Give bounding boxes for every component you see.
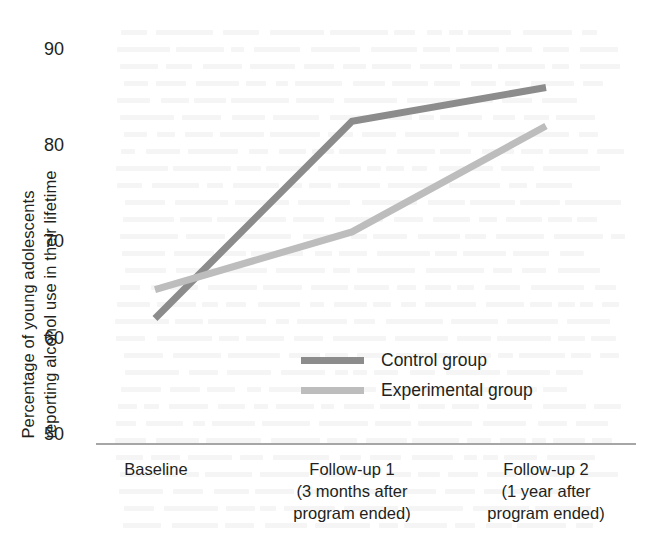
series-layer	[155, 88, 546, 319]
legend-item-control-group: Control group	[301, 345, 601, 375]
x-axis-label-baseline: Baseline	[86, 458, 226, 480]
x-axis-label-followup-2: Follow-up 2 (1 year after program ended)	[456, 458, 636, 524]
legend-swatch-experimental-group	[301, 387, 364, 394]
chart-legend: Control group Experimental group	[301, 345, 601, 405]
chart-figure: Percentage of young adolescents reportin…	[0, 0, 646, 554]
x-axis-label-followup-1-line-3: program ended)	[262, 502, 442, 524]
x-axis-label-followup-1-line-2: (3 months after	[262, 480, 442, 502]
x-axis-label-followup-1-line-1: Follow-up 1	[262, 458, 442, 480]
x-axis-label-followup-2-line-1: Follow-up 2	[456, 458, 636, 480]
x-axis-label-followup-2-line-3: program ended)	[456, 502, 636, 524]
legend-label-experimental-group: Experimental group	[381, 380, 533, 401]
series-line-control-group	[155, 88, 546, 319]
x-axis-label-followup-1: Follow-up 1 (3 months after program ende…	[262, 458, 442, 524]
x-axis-label-baseline-line-1: Baseline	[86, 458, 226, 480]
x-axis-label-followup-2-line-2: (1 year after	[456, 480, 636, 502]
legend-swatch-control-group	[301, 357, 364, 364]
legend-item-experimental-group: Experimental group	[301, 375, 601, 405]
legend-label-control-group: Control group	[381, 350, 487, 371]
x-axis-line	[96, 443, 636, 445]
series-line-experimental-group	[155, 126, 546, 290]
